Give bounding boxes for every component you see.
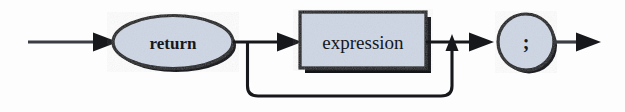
railroad-diagram: return expression ;: [0, 0, 625, 112]
expression-label: expression: [322, 32, 404, 53]
railroad-diagram-canvas: return expression ;: [0, 0, 625, 112]
return-keyword-label: return: [150, 34, 197, 53]
node-expression[interactable]: expression: [300, 12, 431, 73]
semicolon-label: ;: [523, 31, 530, 53]
